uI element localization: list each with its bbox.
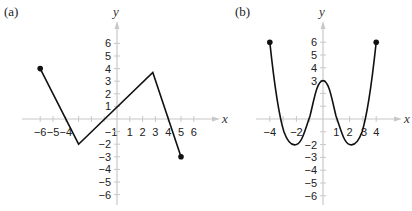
svg-text:2: 2 bbox=[347, 126, 353, 138]
svg-text:−5: −5 bbox=[47, 126, 60, 138]
x-axis-label-a: x bbox=[221, 111, 228, 126]
panel-label-b: (b) bbox=[235, 4, 250, 19]
svg-text:6: 6 bbox=[105, 37, 111, 49]
svg-text:3: 3 bbox=[152, 126, 158, 138]
x-axis-label-b: x bbox=[403, 111, 410, 126]
svg-text:1: 1 bbox=[333, 126, 339, 138]
svg-text:−5: −5 bbox=[304, 177, 317, 189]
endpoint-dot-b-left bbox=[267, 39, 273, 45]
svg-text:−3: −3 bbox=[98, 151, 111, 163]
svg-text:−2: −2 bbox=[98, 138, 111, 150]
x-axis-arrow-a bbox=[212, 117, 220, 122]
svg-text:−6: −6 bbox=[34, 126, 47, 138]
svg-text:6: 6 bbox=[191, 126, 197, 138]
y-axis-label-b: y bbox=[317, 4, 325, 19]
svg-text:5: 5 bbox=[178, 126, 184, 138]
svg-text:4: 4 bbox=[373, 126, 379, 138]
svg-text:−6: −6 bbox=[304, 190, 317, 202]
graph-b: (b) x y −4 −2 1 2 3 4 bbox=[235, 4, 410, 205]
endpoint-dot-b-right bbox=[373, 39, 379, 45]
svg-text:3: 3 bbox=[311, 75, 317, 87]
x-axis-arrow-b bbox=[394, 117, 402, 122]
svg-text:−6: −6 bbox=[98, 189, 111, 201]
svg-text:−5: −5 bbox=[98, 176, 111, 188]
svg-text:3: 3 bbox=[105, 75, 111, 87]
svg-text:1: 1 bbox=[105, 100, 111, 112]
svg-text:4: 4 bbox=[165, 126, 171, 138]
svg-text:1: 1 bbox=[127, 126, 133, 138]
y-axis-arrow-b bbox=[321, 21, 326, 29]
panel-label-a: (a) bbox=[4, 4, 18, 19]
endpoint-dot-a-left bbox=[37, 66, 43, 72]
endpoint-dot-a-right bbox=[178, 154, 184, 160]
svg-text:−4: −4 bbox=[98, 163, 111, 175]
svg-text:−2: −2 bbox=[304, 139, 317, 151]
graph-a: (a) x y −6 −5 −4 −1 1 2 bbox=[4, 4, 228, 205]
svg-text:4: 4 bbox=[311, 62, 317, 74]
svg-text:2: 2 bbox=[105, 88, 111, 100]
svg-text:−2: −2 bbox=[290, 126, 303, 138]
svg-text:4: 4 bbox=[105, 63, 111, 75]
svg-text:2: 2 bbox=[140, 126, 146, 138]
svg-text:6: 6 bbox=[311, 36, 317, 48]
y-axis-arrow-a bbox=[115, 21, 120, 29]
svg-text:5: 5 bbox=[105, 50, 111, 62]
y-axis-label-a: y bbox=[111, 4, 119, 19]
svg-text:−3: −3 bbox=[304, 151, 317, 163]
figure: (a) x y −6 −5 −4 −1 1 2 bbox=[0, 0, 412, 211]
svg-text:−4: −4 bbox=[304, 164, 317, 176]
svg-text:5: 5 bbox=[311, 49, 317, 61]
svg-text:−4: −4 bbox=[264, 126, 277, 138]
